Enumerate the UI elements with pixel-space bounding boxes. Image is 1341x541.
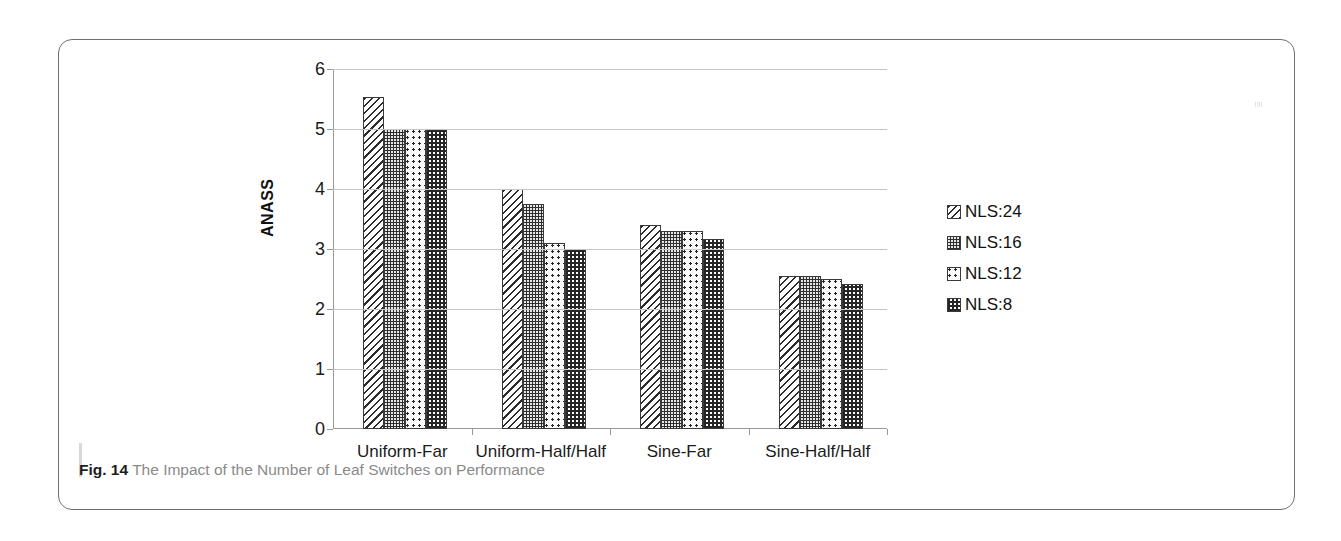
- bar: [821, 279, 842, 429]
- plot-area: [333, 69, 887, 429]
- y-axis-tick: [327, 69, 333, 70]
- legend-item: NLS:8: [947, 289, 1087, 320]
- legend-label: NLS:8: [965, 296, 1012, 313]
- legend-swatch: [947, 236, 961, 250]
- y-axis-tick-label: 5: [285, 120, 325, 138]
- x-axis-tick-label: Uniform-Half/Half: [472, 442, 611, 462]
- x-axis-tick: [887, 429, 888, 435]
- y-axis-tick-label: 6: [285, 60, 325, 78]
- y-axis-tick: [327, 129, 333, 130]
- figure-frame: ANASS 0123456 Uniform-FarUniform-Half/Ha…: [58, 39, 1295, 510]
- legend-swatch: [947, 205, 961, 219]
- bar: [842, 284, 863, 429]
- y-axis-tick: [327, 429, 333, 430]
- bar: [523, 204, 544, 429]
- y-axis-tick: [327, 189, 333, 190]
- x-axis-tick: [610, 429, 611, 435]
- x-axis-tick-label: Sine-Half/Half: [749, 442, 888, 462]
- bar: [565, 249, 586, 429]
- y-axis-tick: [327, 369, 333, 370]
- bar: [682, 231, 703, 429]
- y-axis-tick: [327, 249, 333, 250]
- gridline: [333, 249, 887, 250]
- y-axis-title: ANASS: [259, 178, 277, 237]
- y-axis-tick-labels: 0123456: [279, 69, 325, 429]
- figure-caption: Fig. 14 The Impact of the Number of Leaf…: [79, 460, 1276, 480]
- legend-label: NLS:24: [965, 203, 1022, 220]
- bar: [703, 239, 724, 429]
- bar: [640, 225, 661, 429]
- y-axis-tick-label: 4: [285, 180, 325, 198]
- y-axis-tick-label: 3: [285, 240, 325, 258]
- gridline: [333, 369, 887, 370]
- y-axis-tick-label: 2: [285, 300, 325, 318]
- legend-item: NLS:12: [947, 258, 1087, 289]
- bar: [405, 129, 426, 429]
- legend-swatch: [947, 267, 961, 281]
- y-axis-tick: [327, 309, 333, 310]
- x-axis-tick: [749, 429, 750, 435]
- bar-chart: ANASS 0123456 Uniform-FarUniform-Half/Ha…: [59, 40, 1294, 509]
- figure-caption-text: The Impact of the Number of Leaf Switche…: [128, 461, 545, 478]
- legend-item: NLS:16: [947, 227, 1087, 258]
- y-axis-tick-label: 1: [285, 360, 325, 378]
- gridline: [333, 189, 887, 190]
- bar: [384, 129, 405, 429]
- bar: [426, 129, 447, 429]
- gridline: [333, 129, 887, 130]
- bar: [800, 276, 821, 429]
- legend-swatch: [947, 298, 961, 312]
- bar: [779, 276, 800, 429]
- legend-item: NLS:24: [947, 196, 1087, 227]
- x-axis-tick-label: Sine-Far: [610, 442, 749, 462]
- legend-label: NLS:12: [965, 265, 1022, 282]
- legend-label: NLS:16: [965, 234, 1022, 251]
- scan-artifact: [1255, 102, 1263, 107]
- y-axis-tick-label: 0: [285, 420, 325, 438]
- figure-caption-label: Fig. 14: [79, 461, 128, 478]
- bar: [661, 231, 682, 429]
- gridline: [333, 309, 887, 310]
- x-axis-tick-label: Uniform-Far: [333, 442, 472, 462]
- bar: [544, 243, 565, 429]
- chart-legend: NLS:24NLS:16NLS:12NLS:8: [947, 196, 1087, 320]
- x-axis-tick: [472, 429, 473, 435]
- gridline: [333, 69, 887, 70]
- bar: [363, 97, 384, 429]
